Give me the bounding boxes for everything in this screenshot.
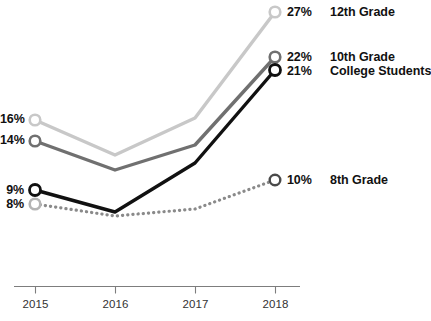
marker-8th-grade-2018 — [270, 175, 281, 186]
value-label-12th-grade-end: 27% — [287, 6, 312, 19]
value-label-10th-grade-end: 22% — [287, 51, 312, 64]
marker-10th-grade-2018 — [270, 52, 281, 63]
series-line-college-students — [35, 70, 275, 212]
marker-12th-grade-2018 — [270, 7, 281, 18]
series-line-8th-grade — [35, 180, 275, 216]
x-tick-label-2015: 2015 — [10, 299, 61, 311]
value-label-10th-grade-start: 14% — [0, 134, 24, 147]
marker-10th-grade-2015 — [30, 136, 41, 147]
x-tick-label-2018: 2018 — [250, 299, 301, 311]
value-label-college-students-end: 21% — [287, 65, 312, 78]
marker-8th-grade-2015 — [30, 199, 41, 210]
x-tick-label-2017: 2017 — [170, 299, 221, 311]
x-tick-label-2016: 2016 — [90, 299, 141, 311]
legend-label-10th-grade: 10th Grade — [330, 51, 395, 64]
marker-12th-grade-2015 — [30, 115, 41, 126]
legend-label-college-students: College Students — [330, 65, 431, 78]
marker-college-students-2015 — [30, 185, 41, 196]
value-label-college-students-start: 9% — [0, 184, 24, 197]
value-label-12th-grade-start: 16% — [0, 113, 24, 126]
legend-label-8th-grade: 8th Grade — [330, 174, 388, 187]
value-label-8th-grade-end: 10% — [287, 174, 312, 187]
marker-college-students-2018 — [270, 65, 281, 76]
series-line-12th-grade — [35, 12, 275, 155]
legend-label-12th-grade: 12th Grade — [330, 6, 395, 19]
value-label-8th-grade-start: 8% — [0, 198, 24, 211]
